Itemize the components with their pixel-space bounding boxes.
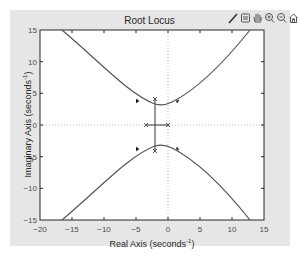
- zoom-in-icon[interactable]: [264, 12, 275, 24]
- home-icon[interactable]: [288, 12, 299, 24]
- y-axis-label: Imaginary Axis (seconds-1): [22, 30, 33, 220]
- svg-text:0: 0: [166, 225, 171, 234]
- svg-text:15: 15: [260, 225, 269, 234]
- svg-text:10: 10: [228, 225, 237, 234]
- pan-icon[interactable]: [252, 12, 263, 24]
- svg-text:−20: −20: [33, 225, 47, 234]
- svg-text:−10: −10: [97, 225, 111, 234]
- svg-text:−5: −5: [131, 225, 141, 234]
- brush-icon[interactable]: [228, 12, 239, 24]
- data-tip-icon[interactable]: [240, 12, 251, 24]
- root-locus-plot[interactable]: −20−15−10 −505 1015 15105 0−5−10 −15: [0, 0, 299, 259]
- x-axis-label: Real Axis (seconds-1): [40, 238, 264, 249]
- svg-text:5: 5: [198, 225, 203, 234]
- svg-text:0: 0: [33, 121, 38, 130]
- svg-text:5: 5: [33, 89, 38, 98]
- x-tick-labels: −20−15−10 −505 1015: [33, 225, 269, 234]
- svg-text:−15: −15: [65, 225, 79, 234]
- axes-toolbar: [228, 12, 299, 26]
- zoom-out-icon[interactable]: [276, 12, 287, 24]
